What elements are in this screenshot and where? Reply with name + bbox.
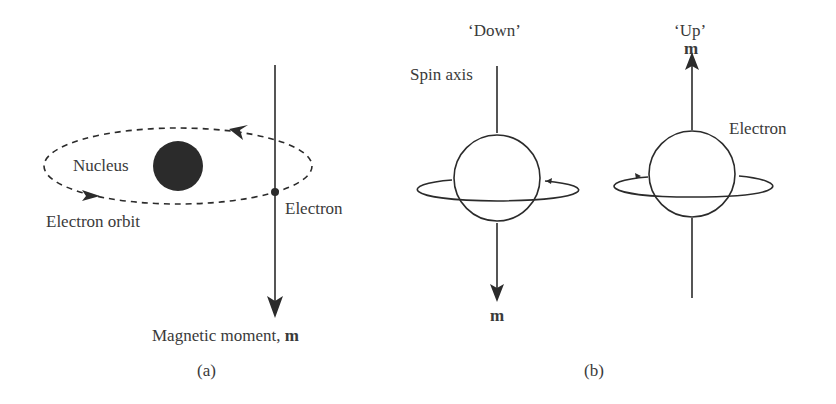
nucleus	[153, 141, 203, 191]
up-title: ‘Up’	[674, 22, 706, 39]
orbit-arrow-bottom	[82, 190, 100, 201]
spin-ring-up	[614, 176, 773, 197]
spin-arrow-down	[546, 178, 552, 184]
caption-b: (b)	[584, 362, 604, 379]
moment-symbol-down: m	[490, 307, 504, 324]
figure: Nucleus Electron orbit Electron Magnetic…	[0, 0, 836, 404]
orbit-arrow-top	[229, 125, 248, 140]
diagram-graphics	[0, 0, 836, 404]
moment-label: Magnetic moment, m	[152, 327, 299, 344]
orbit-label: Electron orbit	[46, 213, 140, 230]
down-title: ‘Down’	[468, 22, 521, 39]
moment-symbol-up: m	[684, 40, 698, 57]
electron-sphere-down	[454, 135, 540, 221]
electron-dot	[271, 188, 279, 196]
moment-symbol-a: m	[285, 326, 299, 345]
electron-label-a: Electron	[285, 200, 343, 217]
electron-label-b: Electron	[729, 120, 787, 137]
moment-label-text: Magnetic moment,	[152, 326, 285, 345]
electron-sphere-up	[649, 131, 735, 217]
spin-ring-down-back	[417, 180, 578, 201]
nucleus-label: Nucleus	[73, 157, 129, 174]
caption-a: (a)	[197, 362, 216, 379]
spin-axis-label: Spin axis	[410, 66, 473, 83]
